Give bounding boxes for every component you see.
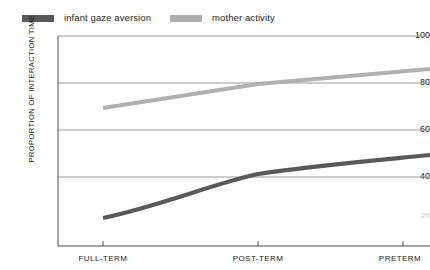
series-line-mother-activity bbox=[103, 69, 430, 108]
series-line-infant-gaze-aversion bbox=[103, 155, 430, 218]
plot-area bbox=[0, 0, 430, 270]
x-axis-ticks bbox=[103, 241, 403, 246]
line-chart: infant gaze aversion mother activity PRO… bbox=[0, 0, 430, 270]
